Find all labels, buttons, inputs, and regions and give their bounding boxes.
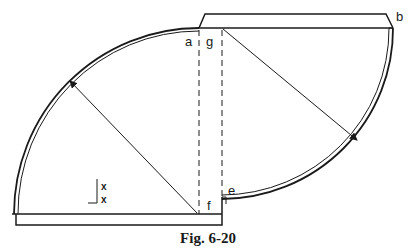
label-a: a bbox=[185, 34, 193, 49]
label-b: b bbox=[396, 9, 403, 24]
left-radius-arrow bbox=[70, 81, 197, 213]
right-arc-outer bbox=[222, 28, 393, 199]
pattern-development-drawing: x x a g b e f bbox=[0, 0, 416, 250]
fold-lines bbox=[199, 30, 222, 214]
right-sector bbox=[222, 28, 393, 199]
right-arc-inner bbox=[222, 28, 389, 195]
label-e: e bbox=[228, 183, 235, 198]
seam-mark bbox=[88, 179, 97, 203]
right-radius-arrow bbox=[223, 29, 357, 140]
mark-x-lower: x bbox=[101, 194, 107, 205]
label-f: f bbox=[207, 198, 211, 213]
figure-caption: Fig. 6-20 bbox=[0, 230, 416, 247]
bottom-flange bbox=[12, 197, 226, 225]
mark-x-upper: x bbox=[101, 181, 107, 192]
top-flange bbox=[199, 14, 393, 28]
label-g: g bbox=[206, 34, 213, 49]
